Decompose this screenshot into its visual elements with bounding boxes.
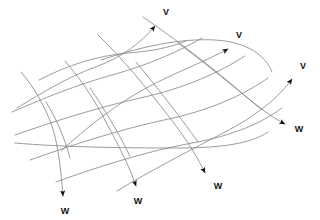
diagram-canvas: V V V W W W W [0, 0, 320, 220]
v-curve-3 [117, 79, 292, 191]
mesh-curve-v3 [136, 62, 198, 142]
label-w-3: W [134, 196, 143, 206]
mesh-curve-v2 [90, 88, 130, 156]
boundary-curve-top [101, 40, 272, 72]
w-family-curves [21, 17, 285, 196]
v-family-curves [17, 26, 292, 191]
label-w-2: W [214, 181, 223, 191]
label-v-3: V [300, 61, 306, 71]
curvilinear-mesh-figure: V V V W W W W [0, 0, 320, 220]
boundary-curve-bottom [15, 132, 268, 148]
w-curve-1 [21, 72, 63, 196]
interior-mesh-curves [12, 38, 282, 182]
v-curve-1 [17, 26, 155, 108]
w-curve-2 [65, 61, 136, 186]
label-w-1: W [295, 124, 304, 134]
label-v-2: V [236, 30, 242, 40]
figure-labels: V V V W W W W [61, 7, 306, 216]
mesh-curve-h1 [39, 41, 186, 80]
label-v-1: V [163, 7, 169, 17]
label-w-4: W [61, 206, 70, 216]
